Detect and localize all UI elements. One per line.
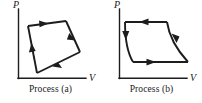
process-a-cycle-path xyxy=(28,21,80,73)
caption-process-b: Process (b) xyxy=(101,84,202,94)
x-axis-label-a: V xyxy=(89,72,97,83)
segment-right-curve-b xyxy=(167,22,188,62)
arrow-right-bottom-segment-b xyxy=(147,59,157,66)
x-axis-label-b: V xyxy=(190,72,198,83)
y-axis-label-a: P xyxy=(12,0,19,10)
panel-process-b: P V Process (b) xyxy=(101,0,202,103)
panel-process-a: P V Process (a) xyxy=(0,0,101,103)
arrow-right-top-segment-a xyxy=(39,20,49,27)
process-b-cycle-path xyxy=(125,22,188,62)
segment-left-curve-b xyxy=(125,22,133,62)
pv-diagram-figure: P V Process (a) xyxy=(0,0,202,103)
segment-bottom-a xyxy=(37,52,80,73)
arrow-left-top-segment-b xyxy=(139,19,149,26)
caption-process-a: Process (a) xyxy=(0,84,101,94)
axes-b xyxy=(119,9,187,79)
arrow-down-left-curve-b xyxy=(122,31,129,40)
y-axis-label-b: P xyxy=(113,0,120,10)
